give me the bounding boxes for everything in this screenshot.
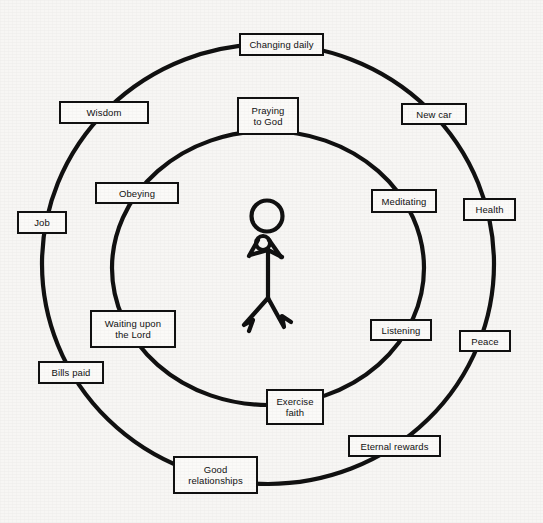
node-good-relationships[interactable]: Good relationships: [173, 456, 258, 494]
node-listening[interactable]: Listening: [370, 319, 432, 341]
inner-circle: [112, 131, 424, 405]
node-health[interactable]: Health: [463, 198, 516, 221]
node-new-car[interactable]: New car: [401, 103, 467, 125]
diagram-canvas: Praying to God Meditating Listening Exer…: [0, 0, 543, 523]
node-praying-to-god[interactable]: Praying to God: [237, 97, 299, 135]
node-waiting-upon-the-lord[interactable]: Waiting upon the Lord: [90, 310, 176, 348]
node-peace[interactable]: Peace: [459, 330, 511, 352]
node-changing-daily[interactable]: Changing daily: [239, 33, 324, 56]
node-eternal-rewards[interactable]: Eternal rewards: [348, 435, 441, 457]
node-job[interactable]: Job: [17, 211, 67, 234]
node-exercise-faith[interactable]: Exercise faith: [266, 389, 324, 425]
node-bills-paid[interactable]: Bills paid: [38, 361, 104, 384]
node-wisdom[interactable]: Wisdom: [59, 101, 149, 124]
circles-and-figure-svg: [0, 0, 543, 523]
node-meditating[interactable]: Meditating: [371, 189, 437, 213]
node-obeying[interactable]: Obeying: [95, 182, 179, 204]
